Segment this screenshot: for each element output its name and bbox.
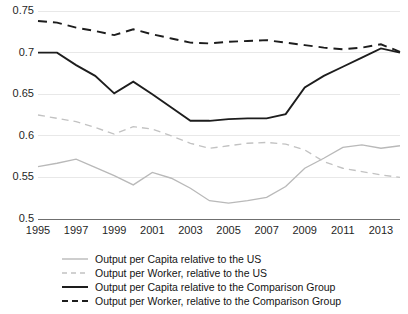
x-tick-label: 2007 — [254, 224, 278, 236]
y-tick-label: 0.7 — [0, 47, 34, 58]
x-tick-label: 2011 — [331, 224, 355, 236]
y-tick-label: 0.5 — [0, 213, 34, 224]
x-tick-label: 2005 — [216, 224, 240, 236]
x-tick-label: 1995 — [26, 224, 50, 236]
legend-item-label: Output per Capita relative to the US — [95, 253, 261, 265]
series-line — [38, 145, 400, 203]
x-tick-label: 2013 — [369, 224, 393, 236]
line-key-dashed-light-icon — [62, 268, 88, 278]
legend-item-label: Output per Capita relative to the Compar… — [95, 281, 335, 293]
legend-item[interactable]: Output per Capita relative to the Compar… — [62, 280, 408, 294]
x-tick-label: 2009 — [292, 224, 316, 236]
x-tick-label: 1997 — [64, 224, 88, 236]
y-tick-label: 0.6 — [0, 130, 34, 141]
x-tick-label: 2003 — [178, 224, 202, 236]
x-axis: 1995199719992001200320052007200920112013 — [38, 224, 400, 240]
legend-item[interactable]: Output per Worker, relative to the Compa… — [62, 294, 408, 308]
line-key-solid-light-icon — [62, 254, 88, 264]
legend-item[interactable]: Output per Capita relative to the US — [62, 252, 408, 266]
series-lines — [38, 21, 400, 203]
y-axis: 0.50.550.60.650.70.75 — [0, 0, 34, 314]
y-tick-label: 0.65 — [0, 88, 34, 99]
line-key-solid-dark-icon — [62, 282, 88, 292]
line-key-dashed-dark-icon — [62, 296, 88, 306]
plot-svg — [38, 11, 400, 219]
legend-item-label: Output per Worker, relative to the US — [95, 267, 267, 279]
y-tick-label: 0.75 — [0, 5, 34, 16]
series-line — [38, 48, 400, 120]
y-tick-label: 0.55 — [0, 171, 34, 182]
x-tick-label: 2001 — [140, 224, 164, 236]
series-line — [38, 21, 400, 52]
legend-item[interactable]: Output per Worker, relative to the US — [62, 266, 408, 280]
chart-figure: 0.50.550.60.650.70.75 199519971999200120… — [0, 0, 408, 314]
x-tick-label: 1999 — [102, 224, 126, 236]
plot-area — [38, 11, 400, 219]
legend-item-label: Output per Worker, relative to the Compa… — [95, 295, 341, 307]
series-line — [38, 115, 400, 177]
chart-legend: Output per Capita relative to the USOutp… — [62, 252, 408, 308]
